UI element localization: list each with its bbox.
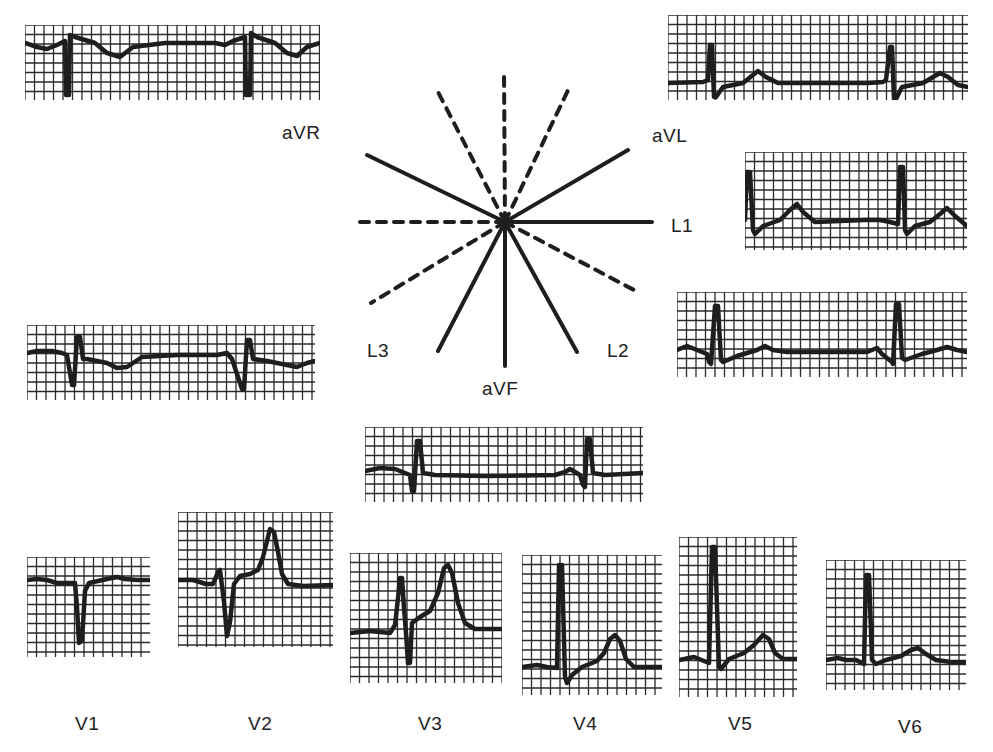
ecg-strip-v6 — [826, 560, 966, 690]
ecg-strip-avl — [668, 15, 968, 100]
ecg-strip-v5 — [679, 537, 797, 697]
ecg-strip-l2 — [677, 292, 967, 377]
precordial-label-v2: V2 — [248, 713, 272, 735]
precordial-label-v5: V5 — [728, 713, 752, 735]
ecg-strip-avf — [365, 427, 643, 502]
grid-paper — [826, 560, 966, 690]
precordial-label-v4: V4 — [573, 713, 597, 735]
axis-label-avf: aVF — [482, 378, 518, 400]
grid-paper — [745, 152, 967, 250]
precordial-label-v1: V1 — [75, 713, 99, 735]
axis-label-l3: L3 — [367, 340, 389, 362]
axis-dashed-neg-l2 — [437, 90, 505, 222]
axis-dashed-neg-avf — [504, 70, 505, 222]
grid-paper — [27, 557, 150, 657]
ecg-trace — [178, 529, 333, 636]
axis-label-l2: L2 — [607, 340, 629, 362]
ecg-trace — [522, 565, 662, 683]
grid-paper — [350, 553, 502, 683]
ecg-trace — [25, 33, 320, 95]
axis-label-avr: aVR — [282, 122, 320, 144]
axis-label-avl: aVL — [652, 125, 687, 147]
grid-paper — [365, 427, 643, 502]
ecg-strip-l1 — [745, 152, 967, 250]
ecg-strip-v1 — [27, 557, 150, 657]
precordial-label-v3: V3 — [418, 713, 442, 735]
ecg-strip-v3 — [350, 553, 502, 683]
grid-paper — [178, 512, 333, 647]
ecg-trace — [745, 167, 967, 234]
axis-line-avr — [367, 155, 505, 222]
ecg-strip-l3 — [27, 325, 315, 400]
ecg-strip-avr — [25, 25, 320, 100]
grid-paper — [679, 537, 797, 697]
ecg-strip-v4 — [522, 555, 662, 695]
axis-label-l1: L1 — [671, 215, 693, 237]
ecg-strip-v2 — [178, 512, 333, 647]
precordial-label-v6: V6 — [898, 716, 922, 738]
grid-paper — [522, 555, 662, 695]
